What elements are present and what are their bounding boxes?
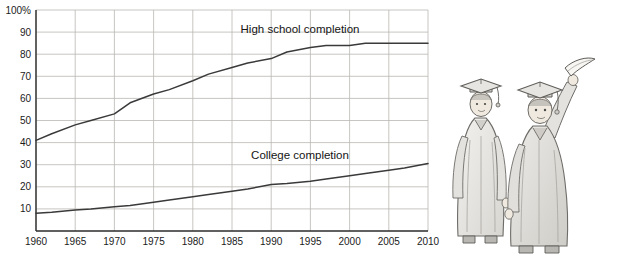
y-tick-label: 90	[20, 27, 32, 38]
y-tick-label: 100%	[5, 5, 31, 16]
x-tick-label: 1960	[25, 236, 48, 247]
x-tick-label: 2005	[378, 236, 401, 247]
y-tick-label: 80	[20, 49, 32, 60]
y-tick-label: 50	[20, 115, 32, 126]
y-tick-label: 30	[20, 159, 32, 170]
x-tick-label: 1975	[142, 236, 165, 247]
series-label-1: High school completion	[241, 23, 360, 35]
x-tick-label: 2000	[338, 236, 361, 247]
y-tick-label: 60	[20, 93, 32, 104]
x-tick-label: 1995	[299, 236, 322, 247]
y-tick-label: 10	[20, 203, 32, 214]
series-label-2: College completion	[251, 149, 349, 161]
x-tick-label: 1990	[260, 236, 283, 247]
diploma-icon	[565, 58, 595, 76]
x-tick-label: 1985	[221, 236, 244, 247]
line-chart: 102030405060708090100%196019651970197519…	[0, 0, 440, 257]
x-tick-label: 1970	[103, 236, 126, 247]
graduate-left	[453, 79, 510, 243]
chart-screenshot: 102030405060708090100%196019651970197519…	[0, 0, 623, 257]
y-tick-label: 70	[20, 71, 32, 82]
y-tick-label: 40	[20, 137, 32, 148]
two-graduates-illustration	[437, 40, 623, 257]
chart-canvas: 102030405060708090100%196019651970197519…	[0, 0, 440, 257]
graduate-right	[505, 58, 595, 253]
x-tick-label: 1965	[64, 236, 87, 247]
y-tick-label: 20	[20, 181, 32, 192]
x-tick-label: 1980	[182, 236, 205, 247]
